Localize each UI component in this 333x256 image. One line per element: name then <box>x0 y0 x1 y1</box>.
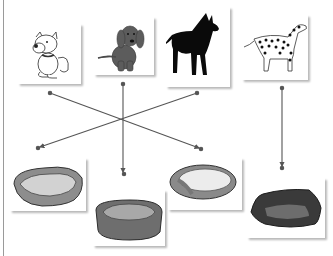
matching-lines <box>0 0 333 256</box>
dot-bed-1[interactable] <box>36 146 39 149</box>
dot-dog-1[interactable] <box>48 91 51 94</box>
dot-bed-4[interactable] <box>280 166 283 169</box>
dot-dog-2[interactable] <box>121 82 124 85</box>
dot-dog-4[interactable] <box>280 86 283 89</box>
match-line-dog1-bed3 <box>50 93 199 148</box>
dot-bed-3[interactable] <box>199 147 202 150</box>
worksheet <box>0 0 333 256</box>
dot-dog-3[interactable] <box>195 91 198 94</box>
dot-bed-2[interactable] <box>122 172 125 175</box>
